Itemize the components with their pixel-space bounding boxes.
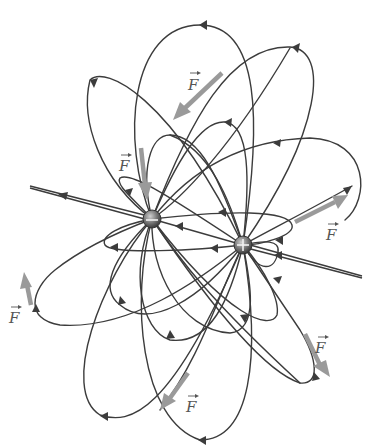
force-label-lower-right: F bbox=[314, 335, 329, 357]
svg-text:F: F bbox=[325, 226, 337, 244]
force-label-right: F bbox=[325, 222, 339, 244]
negative-charge bbox=[143, 210, 161, 228]
svg-text:F: F bbox=[8, 309, 20, 327]
force-vectors bbox=[20, 73, 348, 410]
svg-text:F: F bbox=[185, 398, 197, 416]
svg-text:F: F bbox=[314, 339, 326, 357]
force-vector-right bbox=[295, 202, 335, 222]
force-label-bottom: F bbox=[185, 394, 199, 416]
force-label-top: F bbox=[187, 71, 201, 94]
svg-text:F: F bbox=[187, 76, 199, 94]
dipole-axis-lines bbox=[30, 186, 362, 278]
positive-charge bbox=[234, 236, 252, 254]
svg-text:F: F bbox=[118, 157, 130, 175]
force-vector-upper-left bbox=[141, 148, 145, 185]
electric-dipole-field-diagram: F F F F F F bbox=[0, 0, 382, 445]
force-labels: F F F F F F bbox=[8, 71, 339, 416]
arrowhead-icon bbox=[175, 222, 183, 231]
force-label-left: F bbox=[8, 305, 22, 327]
force-label-upper-left: F bbox=[118, 153, 132, 175]
force-vector-left bbox=[27, 285, 31, 305]
